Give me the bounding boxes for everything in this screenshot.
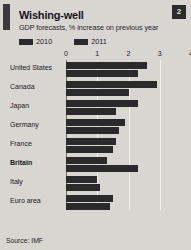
bar-2011 xyxy=(66,165,138,172)
card-body: Wishing-well GDP forecasts, % increase o… xyxy=(0,0,191,250)
source-note: Source: IMF xyxy=(6,237,43,244)
legend-label-2010: 2010 xyxy=(36,37,52,46)
bar-2011 xyxy=(66,184,100,191)
bar-row: Canada xyxy=(6,79,185,98)
category-label: France xyxy=(10,140,32,147)
category-label: Canada xyxy=(10,83,35,90)
bar-row: Italy xyxy=(6,174,185,193)
bar-2010 xyxy=(66,157,107,164)
bar-2011 xyxy=(66,146,113,153)
bar-row: Euro area xyxy=(6,193,185,212)
x-axis-tick-labels: 01234 xyxy=(6,50,185,60)
bar-2010 xyxy=(66,62,147,69)
bar-row: United States xyxy=(6,60,185,79)
bar-row: France xyxy=(6,136,185,155)
bar-rows: United StatesCanadaJapanGermanyFranceBri… xyxy=(6,60,185,210)
plot-area: 01234 United StatesCanadaJapanGermanyFra… xyxy=(6,50,185,222)
chart-title: Wishing-well xyxy=(19,9,185,21)
x-tick-label: 2 xyxy=(127,50,131,57)
bar-2010 xyxy=(66,100,138,107)
bar-2011 xyxy=(66,89,129,96)
category-label: Japan xyxy=(10,102,29,109)
bar-row: Germany xyxy=(6,117,185,136)
bar-2010 xyxy=(66,81,157,88)
chart-subtitle: GDP forecasts, % increase on previous ye… xyxy=(19,23,185,32)
legend-swatch-2010 xyxy=(19,39,33,45)
category-label: United States xyxy=(10,64,52,71)
bar-2010 xyxy=(66,176,97,183)
legend-entry-2010: 2010 xyxy=(19,37,52,46)
legend-entry-2011: 2011 xyxy=(74,37,107,46)
bar-2011 xyxy=(66,127,119,134)
category-label: Britain xyxy=(10,159,32,166)
category-label: Germany xyxy=(10,121,39,128)
bar-2011 xyxy=(66,203,110,210)
x-tick-label: 3 xyxy=(158,50,162,57)
x-tick-label: 0 xyxy=(64,50,68,57)
bar-2010 xyxy=(66,138,116,145)
chart-legend: 2010 2011 xyxy=(19,37,185,46)
bar-2010 xyxy=(66,195,113,202)
bar-2010 xyxy=(66,119,125,126)
bar-row: Japan xyxy=(6,98,185,117)
category-label: Italy xyxy=(10,178,23,185)
bar-2011 xyxy=(66,108,116,115)
category-label: Euro area xyxy=(10,197,41,204)
legend-swatch-2011 xyxy=(74,39,88,45)
bar-row: Britain xyxy=(6,155,185,174)
bar-2011 xyxy=(66,70,138,77)
x-tick-label: 1 xyxy=(95,50,99,57)
legend-label-2011: 2011 xyxy=(91,37,107,46)
chart-card: 2 Wishing-well GDP forecasts, % increase… xyxy=(0,0,191,250)
x-tick-label: 4 xyxy=(189,50,191,57)
